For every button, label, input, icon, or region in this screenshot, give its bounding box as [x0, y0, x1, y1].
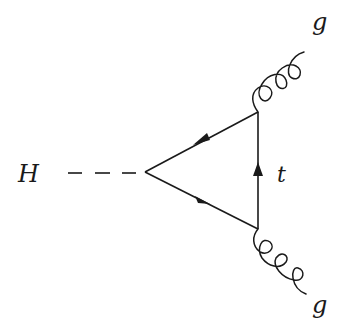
arrow-lower-icon [195, 196, 210, 204]
top-quark-label: t [277, 164, 286, 186]
gluon-bottom [254, 229, 306, 294]
arrow-vertical-icon [253, 162, 263, 176]
feynman-diagram [0, 0, 351, 332]
gluon-top [253, 52, 304, 112]
gluon-top-label: g [312, 10, 327, 34]
arrow-upper-icon [193, 133, 210, 145]
gluon-bottom-label: g [312, 293, 327, 317]
higgs-label: H [18, 162, 39, 186]
top-quark-loop [145, 112, 258, 229]
fermion-arrows [193, 133, 263, 204]
